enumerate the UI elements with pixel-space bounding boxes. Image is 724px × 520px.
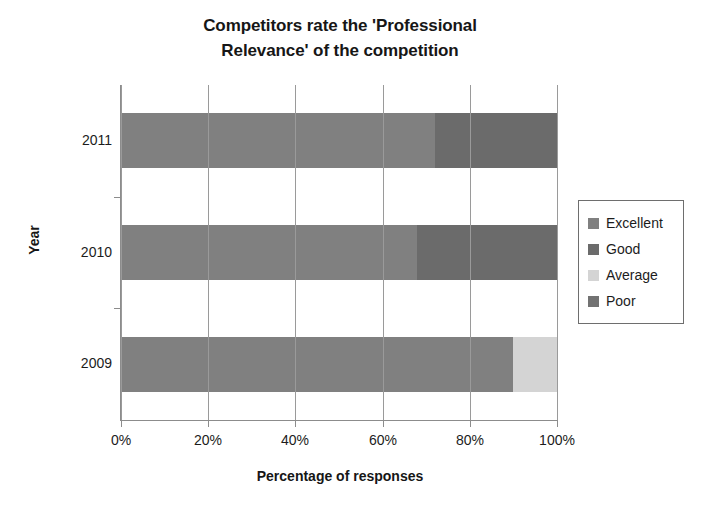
legend-item[interactable]: Average — [588, 262, 675, 288]
legend-swatch-icon — [588, 244, 599, 255]
bar-segment[interactable] — [121, 113, 435, 168]
legend-swatch-icon — [588, 218, 599, 229]
legend-swatch-icon — [588, 296, 599, 307]
legend-label: Poor — [606, 293, 636, 309]
bar-row — [121, 337, 557, 392]
gridline — [208, 85, 209, 420]
x-tick-mark — [383, 421, 384, 427]
chart-title-line-1: Competitors rate the 'Professional — [120, 14, 560, 39]
x-tick-label: 80% — [440, 432, 500, 448]
bar-segment[interactable] — [121, 225, 417, 280]
chart-legend: ExcellentGoodAveragePoor — [578, 200, 684, 324]
legend-label: Average — [606, 267, 658, 283]
y-axis-title: Year — [26, 190, 42, 290]
x-tick-mark — [121, 421, 122, 427]
legend-item[interactable]: Excellent — [588, 210, 675, 236]
y-tick-mark — [114, 197, 121, 198]
bar-segment[interactable] — [435, 113, 557, 168]
legend-label: Good — [606, 241, 640, 257]
legend-label: Excellent — [606, 215, 663, 231]
bar-segment[interactable] — [417, 225, 557, 280]
gridline — [295, 85, 296, 420]
x-tick-label: 100% — [527, 432, 587, 448]
gridline — [557, 85, 558, 420]
plot-area — [121, 85, 557, 420]
gridline — [121, 85, 122, 420]
x-axis-title: Percentage of responses — [160, 468, 520, 484]
y-category-label: 2010 — [44, 244, 112, 260]
chart-container: Competitors rate the 'Professional Relev… — [0, 0, 724, 520]
legend-item[interactable]: Poor — [588, 288, 675, 314]
x-tick-label: 60% — [353, 432, 413, 448]
x-tick-mark — [295, 421, 296, 427]
legend-item[interactable]: Good — [588, 236, 675, 262]
x-tick-mark — [557, 421, 558, 427]
x-tick-label: 40% — [265, 432, 325, 448]
x-tick-label: 20% — [178, 432, 238, 448]
x-tick-mark — [470, 421, 471, 427]
y-category-label: 2011 — [44, 132, 112, 148]
bar-row — [121, 225, 557, 280]
chart-title-line-2: Relevance' of the competition — [120, 39, 560, 64]
x-tick-mark — [208, 421, 209, 427]
chart-title: Competitors rate the 'Professional Relev… — [120, 14, 560, 63]
bar-segment[interactable] — [121, 337, 513, 392]
bar-row — [121, 113, 557, 168]
y-tick-mark — [114, 308, 121, 309]
bar-segment[interactable] — [513, 337, 557, 392]
y-category-label: 2009 — [44, 355, 112, 371]
x-axis-line — [120, 420, 558, 421]
gridline — [383, 85, 384, 420]
gridline — [470, 85, 471, 420]
legend-swatch-icon — [588, 270, 599, 281]
x-tick-label: 0% — [91, 432, 151, 448]
